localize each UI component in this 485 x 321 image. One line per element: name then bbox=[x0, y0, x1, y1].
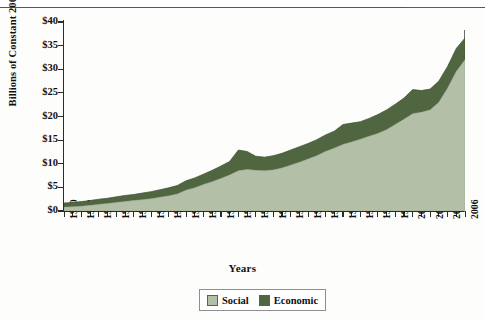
legend-item-economic[interactable]: Economic bbox=[259, 295, 318, 306]
x-tick bbox=[430, 212, 431, 217]
x-tick bbox=[290, 212, 291, 217]
y-tick-label: $5 bbox=[22, 180, 58, 191]
x-tick bbox=[186, 212, 187, 217]
x-tick-label: 2006 bbox=[469, 199, 480, 219]
y-tick bbox=[58, 140, 63, 141]
y-tick-label: $10 bbox=[22, 157, 58, 168]
y-tick-label-wrap: $0 bbox=[14, 204, 58, 216]
legend-label-economic: Economic bbox=[274, 295, 318, 306]
y-tick-label-wrap: $15 bbox=[14, 133, 58, 145]
stacked-area-series bbox=[64, 22, 465, 211]
x-tick bbox=[64, 212, 65, 217]
x-tick bbox=[151, 212, 152, 217]
legend-item-social[interactable]: Social bbox=[207, 295, 249, 306]
x-tick bbox=[81, 212, 82, 217]
y-tick-label: $40 bbox=[22, 15, 58, 26]
x-tick bbox=[465, 212, 466, 217]
legend-swatch-social bbox=[207, 295, 218, 306]
y-tick-label-wrap: $30 bbox=[14, 62, 58, 74]
x-tick bbox=[360, 212, 361, 217]
y-tick bbox=[58, 21, 63, 22]
x-tick bbox=[308, 212, 309, 217]
y-tick-label: $20 bbox=[22, 110, 58, 121]
x-tick bbox=[377, 212, 378, 217]
x-tick bbox=[168, 212, 169, 217]
y-tick bbox=[58, 69, 63, 70]
y-tick-label-wrap: $25 bbox=[14, 86, 58, 98]
y-tick bbox=[58, 210, 63, 211]
chart-figure: Billions of Constant 2000 Dollars $0$5$1… bbox=[0, 0, 485, 321]
legend-label-social: Social bbox=[222, 295, 249, 306]
x-axis-title: Years bbox=[0, 262, 485, 274]
page-top-rule-accent bbox=[406, 7, 480, 8]
legend-swatch-economic bbox=[259, 295, 270, 306]
y-tick-label: $30 bbox=[22, 62, 58, 73]
y-tick-label-wrap: $40 bbox=[14, 15, 58, 27]
plot-area bbox=[64, 22, 465, 211]
y-tick bbox=[58, 92, 63, 93]
y-tick-label-wrap: $10 bbox=[14, 157, 58, 169]
y-tick-label: $15 bbox=[22, 133, 58, 144]
x-tick bbox=[116, 212, 117, 217]
chart-legend: Social Economic bbox=[199, 289, 326, 311]
y-tick bbox=[58, 116, 63, 117]
x-tick bbox=[325, 212, 326, 217]
y-tick-label: $0 bbox=[22, 204, 58, 215]
y-tick-label: $25 bbox=[22, 86, 58, 97]
x-tick bbox=[133, 212, 134, 217]
y-tick bbox=[58, 163, 63, 164]
y-tick-label-wrap: $20 bbox=[14, 110, 58, 122]
x-tick bbox=[273, 212, 274, 217]
x-tick bbox=[395, 212, 396, 217]
x-tick bbox=[412, 212, 413, 217]
area-social bbox=[64, 60, 465, 211]
x-tick bbox=[447, 212, 448, 217]
y-tick-label: $35 bbox=[22, 39, 58, 50]
y-tick bbox=[58, 45, 63, 46]
x-tick bbox=[98, 212, 99, 217]
x-tick bbox=[342, 212, 343, 217]
x-tick bbox=[203, 212, 204, 217]
y-tick bbox=[58, 187, 63, 188]
y-tick-label-wrap: $35 bbox=[14, 39, 58, 51]
x-tick bbox=[255, 212, 256, 217]
x-tick bbox=[238, 212, 239, 217]
y-tick-label-wrap: $5 bbox=[14, 180, 58, 192]
x-tick bbox=[220, 212, 221, 217]
